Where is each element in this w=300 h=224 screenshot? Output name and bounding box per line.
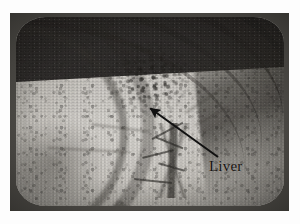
scan-photograph (10, 13, 289, 211)
figure-root: Liver (0, 0, 300, 224)
crt-screen (16, 17, 284, 206)
